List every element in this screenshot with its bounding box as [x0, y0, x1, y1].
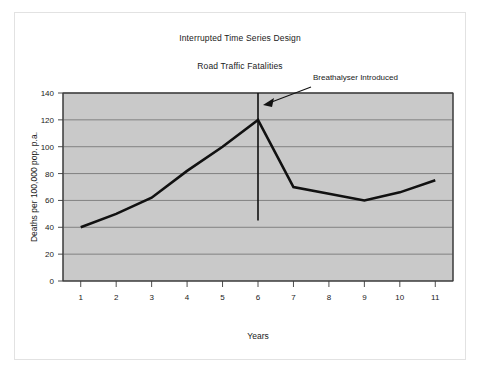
y-tick-label: 100 — [41, 143, 55, 152]
x-tick-label: 11 — [431, 293, 440, 302]
x-tick-label: 3 — [149, 293, 154, 302]
y-axis-ticks: 020406080100120140 — [41, 89, 63, 286]
x-tick-label: 7 — [291, 293, 296, 302]
x-tick-label: 5 — [220, 293, 225, 302]
x-axis-ticks: 1234567891011 — [79, 281, 440, 302]
y-tick-label: 80 — [45, 170, 54, 179]
y-axis-title: Deaths per 100,000 pop. p.a. — [29, 132, 39, 242]
x-tick-label: 9 — [362, 293, 367, 302]
chart-plot: 020406080100120140 1234567891011 Breatha… — [15, 13, 467, 361]
figure-panel: Interrupted Time Series Design Road Traf… — [14, 12, 466, 360]
x-tick-label: 10 — [395, 293, 404, 302]
x-axis-title: Years — [247, 331, 268, 341]
x-tick-label: 2 — [114, 293, 119, 302]
x-tick-label: 8 — [327, 293, 332, 302]
x-tick-label: 1 — [79, 293, 84, 302]
x-tick-label: 4 — [185, 293, 190, 302]
annotation-label: Breathalyser Introduced — [313, 73, 398, 82]
y-tick-label: 20 — [45, 250, 54, 259]
y-tick-label: 60 — [45, 196, 54, 205]
y-tick-label: 0 — [50, 277, 55, 286]
y-tick-label: 120 — [41, 116, 55, 125]
x-tick-label: 6 — [256, 293, 261, 302]
y-tick-label: 40 — [45, 223, 54, 232]
y-tick-label: 140 — [41, 89, 55, 98]
